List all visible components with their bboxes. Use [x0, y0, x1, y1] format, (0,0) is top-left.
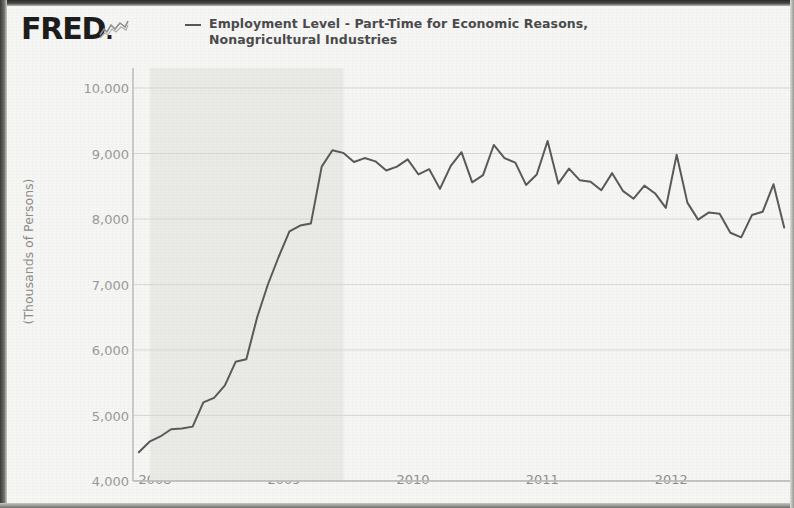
legend-line-swatch: [185, 24, 201, 26]
legend-label-line1: Employment Level - Part-Time for Economi…: [209, 16, 588, 31]
chart-paper: FRED. Employment Level - Part-Time for E…: [7, 6, 790, 503]
legend-entry: Employment Level - Part-Time for Economi…: [185, 16, 705, 48]
fred-squiggle-mark-icon: [99, 20, 129, 40]
legend-label: Employment Level - Part-Time for Economi…: [209, 16, 588, 48]
fred-logo-text: FRED: [21, 11, 105, 46]
recession-shading: [150, 68, 344, 481]
scan-edge-left: [0, 0, 7, 508]
plot-area: (Thousands of Persons) 10,0009,0008,0007…: [7, 68, 790, 503]
scan-edge-bottom: [0, 503, 794, 508]
chart-header: FRED. Employment Level - Part-Time for E…: [7, 6, 790, 68]
line-chart-canvas: [7, 68, 790, 503]
legend-label-line2: Nonagricultural Industries: [209, 32, 397, 47]
fred-chart-screenshot: FRED. Employment Level - Part-Time for E…: [0, 0, 794, 508]
scan-edge-right: [790, 0, 794, 508]
chart-legend: Employment Level - Part-Time for Economi…: [185, 16, 705, 48]
